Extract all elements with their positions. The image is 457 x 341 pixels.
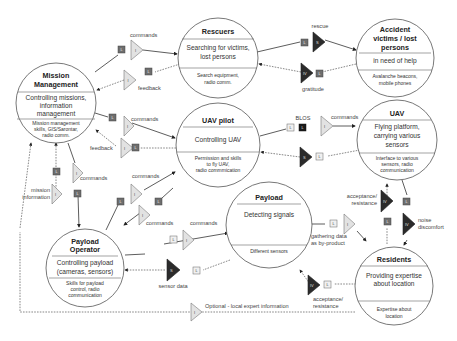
node-mission-management[interactable]: Mission Management Controlling missions,…: [16, 63, 96, 143]
edge-label-rescue: rescue: [312, 23, 329, 29]
svg-text:I: I: [134, 192, 135, 197]
svg-text:IV: IV: [405, 222, 409, 227]
svg-text:Management: Management: [34, 80, 79, 89]
svg-text:victims / lost: victims / lost: [373, 34, 417, 43]
svg-text:L: L: [327, 283, 329, 287]
svg-text:I: I: [127, 124, 128, 129]
svg-text:IV: IV: [303, 71, 307, 76]
level-square-light-icon: L: [193, 267, 200, 274]
svg-text:Payload: Payload: [255, 193, 283, 202]
svg-text:lost persons: lost persons: [200, 53, 236, 61]
edge-label-sensor-data: sensor data: [158, 283, 188, 289]
svg-text:commands: commands: [132, 173, 160, 179]
level-triangle-icon: I: [124, 70, 136, 90]
svg-text:information: information: [22, 194, 50, 200]
level-square-icon: L: [117, 198, 124, 205]
svg-text:I: I: [194, 310, 195, 315]
level-triangle-dark-icon: IV: [381, 190, 393, 212]
svg-text:feedback: feedback: [90, 145, 113, 151]
svg-text:L: L: [56, 170, 58, 174]
svg-text:I: I: [135, 48, 136, 53]
svg-text:commands: commands: [80, 175, 108, 181]
svg-text:location: location: [385, 313, 402, 319]
svg-text:I: I: [124, 146, 125, 151]
level-square-icon: L: [132, 144, 139, 151]
svg-text:sensors: sensors: [385, 141, 409, 148]
level-triangle-icon: I: [131, 184, 142, 204]
svg-text:carrying various: carrying various: [374, 132, 421, 140]
level-square-icon: L: [53, 168, 60, 175]
level-square-light-icon: L: [170, 236, 177, 243]
svg-text:L: L: [333, 222, 335, 226]
svg-text:L: L: [290, 126, 292, 130]
node-uav-pilot[interactable]: UAV pilot Controlling UAV Permission and…: [176, 103, 260, 187]
level-square-light-icon: L: [287, 124, 294, 131]
svg-text:S: S: [316, 40, 319, 45]
node-payload[interactable]: Payload Detecting signals Different sens…: [226, 182, 312, 268]
svg-text:resistance: resistance: [352, 200, 378, 206]
svg-text:I: I: [347, 222, 348, 227]
edge-label-mission-information: mission: [31, 187, 50, 193]
node-rescuers[interactable]: Rescuers Searching for victims, lost per…: [178, 18, 258, 98]
svg-text:L: L: [304, 41, 306, 45]
svg-text:IV: IV: [310, 283, 314, 288]
level-triangle-dark-icon: S: [300, 147, 312, 167]
svg-text:I: I: [142, 213, 143, 218]
svg-text:L: L: [77, 192, 79, 196]
level-square-icon: L: [109, 114, 116, 121]
svg-text:commands: commands: [331, 114, 359, 120]
svg-text:L: L: [196, 269, 198, 273]
svg-text:I: I: [186, 238, 187, 243]
svg-text:L: L: [319, 72, 321, 76]
level-triangle-dark-icon: S: [313, 32, 325, 52]
svg-text:Avalanche beacons,: Avalanche beacons,: [373, 73, 418, 79]
svg-text:Residents: Residents: [377, 255, 411, 264]
level-triangle-dark-icon: S: [167, 259, 180, 281]
level-square-icon: L: [145, 68, 152, 75]
level-triangle-dark-icon: IV: [308, 275, 320, 295]
svg-text:Providing expertise: Providing expertise: [366, 272, 422, 280]
level-square-icon: L: [118, 46, 125, 53]
svg-text:commands: commands: [146, 220, 174, 226]
svg-text:as by-product: as by-product: [311, 240, 345, 246]
level-triangle-dark-icon: IV: [301, 63, 313, 83]
edge-label-noise-discomfort: noise: [418, 217, 431, 223]
svg-text:L: L: [148, 70, 150, 74]
svg-text:S: S: [170, 268, 173, 273]
edge-label-blos: BLOS: [296, 115, 311, 121]
level-square-light-icon: L: [316, 153, 323, 160]
svg-text:L: L: [173, 238, 175, 242]
edge-label-gathering-data: gathering data: [311, 233, 348, 239]
svg-text:commands: commands: [190, 220, 218, 226]
edge-label-gratitude: gratitude: [302, 86, 324, 92]
level-triangle-icon: I: [183, 230, 194, 250]
level-square-icon: L: [301, 39, 308, 46]
svg-text:mobile phones: mobile phones: [379, 80, 412, 86]
level-square-icon: L: [74, 190, 81, 197]
svg-text:information: information: [40, 102, 73, 109]
svg-text:Accident: Accident: [380, 25, 411, 34]
svg-text:Search equipment,: Search equipment,: [197, 72, 239, 78]
svg-text:S: S: [303, 155, 306, 160]
node-payload-operator[interactable]: Payload Operator Controlling payload (ca…: [46, 229, 124, 307]
svg-text:communication: communication: [380, 167, 414, 173]
svg-text:Controlling payload: Controlling payload: [57, 259, 114, 267]
node-uav[interactable]: UAV Flying platform, carrying various se…: [357, 100, 437, 180]
level-triangle-icon: I: [131, 40, 143, 60]
svg-text:resistance: resistance: [313, 303, 339, 309]
svg-text:L: L: [121, 48, 123, 52]
edge-label-commands: commands: [130, 32, 158, 38]
node-accident-victims[interactable]: Accident victims / lost persons in need …: [356, 19, 434, 97]
svg-text:UAV pilot: UAV pilot: [202, 116, 234, 125]
level-square-light-icon: L: [324, 281, 331, 288]
svg-text:radio comm.: radio comm.: [42, 132, 70, 138]
svg-text:L: L: [135, 146, 137, 150]
svg-text:Flying platform,: Flying platform,: [374, 123, 419, 131]
svg-text:Rescuers: Rescuers: [202, 27, 234, 36]
node-residents[interactable]: Residents Providing expertise about loca…: [355, 247, 433, 325]
svg-text:L: L: [387, 220, 389, 224]
svg-text:commands: commands: [131, 116, 159, 122]
level-square-icon: L: [316, 70, 323, 77]
svg-text:acceptance/: acceptance/: [347, 193, 378, 199]
level-triangle-icon: I: [344, 214, 355, 234]
